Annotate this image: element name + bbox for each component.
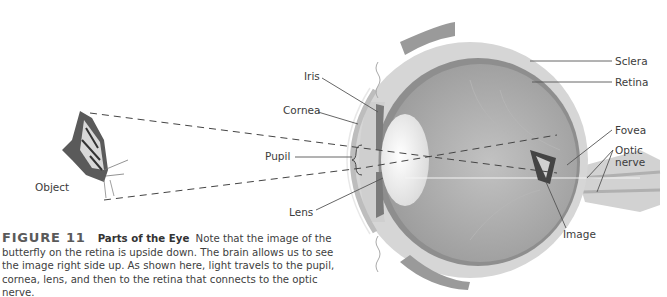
label-cornea: Cornea bbox=[283, 104, 320, 116]
label-fovea: Fovea bbox=[615, 124, 646, 136]
label-optic-nerve-1: Optic bbox=[615, 144, 643, 156]
figure-title: Parts of the Eye bbox=[98, 233, 190, 244]
label-pupil: Pupil bbox=[265, 150, 290, 162]
label-optic-nerve-2: nerve bbox=[615, 156, 645, 168]
label-object: Object bbox=[35, 181, 69, 193]
label-image: Image bbox=[563, 228, 596, 240]
label-iris: Iris bbox=[304, 70, 320, 82]
label-retina: Retina bbox=[615, 76, 648, 88]
figure-caption: FIGURE 11Parts of the Eye Note that the … bbox=[2, 231, 337, 297]
figure-number: FIGURE 11 bbox=[2, 230, 86, 245]
eyeball bbox=[347, 22, 640, 290]
butterfly-object bbox=[62, 111, 128, 198]
label-lens: Lens bbox=[289, 206, 313, 218]
label-sclera: Sclera bbox=[615, 55, 648, 67]
